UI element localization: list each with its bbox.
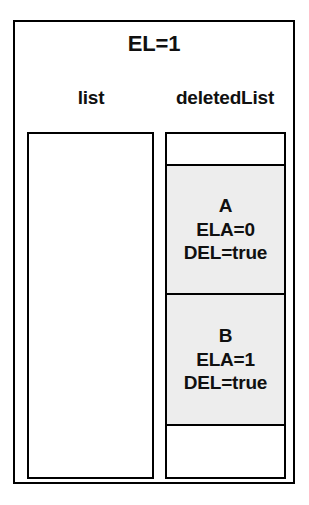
deletedlist-node-a: A ELA=0 DEL=true — [167, 166, 284, 295]
clipped-caption-above — [0, 0, 309, 3]
column-label-list: list — [27, 88, 155, 107]
diagram-canvas: EL=1 list deletedList A ELA=0 DEL=true B… — [0, 0, 309, 505]
column-label-deletedlist: deletedList — [163, 88, 287, 107]
deletedlist-cell-empty-bottom — [167, 426, 284, 477]
el-container-title: EL=1 — [15, 33, 293, 55]
node-a-id: A — [219, 194, 233, 217]
node-b-del: DEL=true — [184, 371, 267, 394]
deletedlist-cell-empty-top — [167, 134, 284, 166]
node-b-id: B — [219, 324, 233, 347]
list-panel — [27, 132, 154, 479]
node-b-ela: ELA=1 — [196, 348, 255, 371]
node-a-del: DEL=true — [184, 241, 267, 264]
el-container-box: EL=1 list deletedList A ELA=0 DEL=true B… — [13, 20, 295, 484]
deletedlist-panel: A ELA=0 DEL=true B ELA=1 DEL=true — [165, 132, 286, 479]
deletedlist-node-b: B ELA=1 DEL=true — [167, 295, 284, 426]
node-a-ela: ELA=0 — [196, 218, 255, 241]
